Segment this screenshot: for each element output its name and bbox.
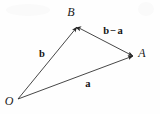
- vector-label-b-minus-a: b−a: [103, 26, 123, 37]
- minus-operator: −: [109, 25, 117, 36]
- point-label-A: A: [138, 47, 145, 59]
- vector-label-a-term: a: [117, 25, 122, 36]
- vector-label-a: a: [85, 79, 90, 90]
- point-label-O: O: [5, 95, 14, 107]
- vector-label-b: b: [39, 49, 45, 60]
- vector-diagram-canvas: [0, 0, 160, 114]
- point-label-B: B: [67, 6, 74, 18]
- vector-diagram-figure: O B A b a b−a: [0, 0, 160, 114]
